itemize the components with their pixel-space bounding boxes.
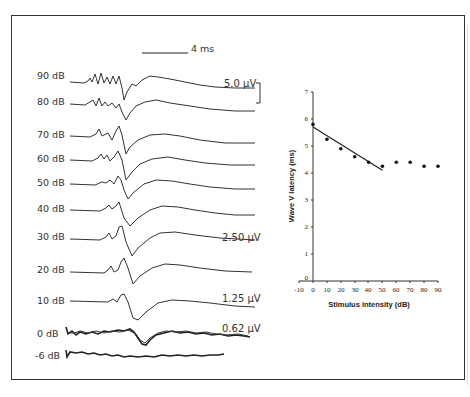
trace-label: 20 dB (37, 264, 65, 275)
amplitude-scale-bar (256, 83, 260, 103)
x-tick-label: 70 (407, 286, 415, 294)
data-point (311, 123, 315, 127)
x-tick-label: 0 (311, 286, 315, 294)
y-ticks: 7 6 5 4 3 2 1 0 (305, 88, 314, 282)
time-scale-label: 4 ms (191, 43, 214, 54)
data-point (422, 165, 426, 169)
waveform-minus6db (66, 350, 224, 357)
x-tick-label: 60 (393, 286, 401, 294)
trace-label: 30 dB (37, 231, 65, 242)
abr-waveforms (66, 73, 255, 357)
waveform-20db (70, 258, 252, 284)
data-point (353, 155, 357, 159)
y-tick-label: 7 (305, 88, 309, 96)
trace-label: 80 dB (37, 96, 65, 107)
x-tick-label: 30 (352, 286, 360, 294)
waveform-50db (70, 176, 255, 199)
amplitude-label: 0.62 µV (222, 323, 261, 334)
x-tick-label: 50 (379, 286, 387, 294)
data-point (408, 160, 412, 164)
trace-label: 0 dB (37, 328, 59, 339)
y-tick-label: 3 (305, 196, 309, 204)
amplitude-label: 1.25 µV (222, 293, 261, 304)
trace-label: 90 dB (37, 70, 65, 81)
y-tick-label: 2 (305, 223, 309, 231)
waveform-70db (70, 126, 255, 154)
x-tick-label: 10 (324, 286, 332, 294)
trace-labels: 90 dB 80 dB 70 dB 60 dB 50 dB 40 dB 30 d… (35, 70, 65, 361)
x-tick-label: 40 (365, 286, 373, 294)
trace-label: 10 dB (37, 295, 65, 306)
y-axis-title: Wave V latency (ms) (287, 149, 296, 222)
x-tick-label: 20 (338, 286, 346, 294)
y-tick-label: 0 (305, 274, 309, 282)
y-tick-label: 4 (305, 169, 309, 177)
trace-label: 40 dB (37, 203, 65, 214)
x-tick-label: 80 (421, 286, 429, 294)
waveform-60db (70, 151, 255, 180)
waveform-40db (70, 202, 255, 226)
y-tick-label: 1 (305, 250, 309, 258)
x-tick-label: -10 (294, 286, 304, 294)
regression-line (313, 127, 382, 170)
trace-label: 70 dB (37, 129, 65, 140)
latency-chart: 7 6 5 4 3 2 1 0 -10 0 10 20 30 (287, 88, 442, 309)
amplitude-label: 2.50 µV (222, 232, 261, 243)
trace-label: 50 dB (37, 177, 65, 188)
data-point (367, 160, 371, 164)
data-points (311, 123, 440, 169)
x-axis-title: Stimulus intensity (dB) (328, 300, 410, 309)
waveform-0db-replicate (68, 330, 248, 343)
y-tick-label: 5 (305, 142, 309, 150)
data-point (395, 160, 399, 164)
y-tick-label: 6 (305, 115, 309, 123)
data-point (325, 138, 329, 142)
data-point (339, 147, 343, 151)
x-tick-label: 90 (435, 286, 443, 294)
data-point (381, 165, 385, 169)
trace-label: -6 dB (35, 350, 60, 361)
data-point (436, 165, 440, 169)
waveform-80db (70, 98, 255, 120)
trace-label: 60 dB (37, 153, 65, 164)
figure-canvas: 4 ms 90 dB 80 dB 70 dB 60 dB 50 dB 40 dB… (0, 0, 470, 397)
x-ticks: -10 0 10 20 30 40 50 60 70 80 90 (294, 281, 442, 294)
